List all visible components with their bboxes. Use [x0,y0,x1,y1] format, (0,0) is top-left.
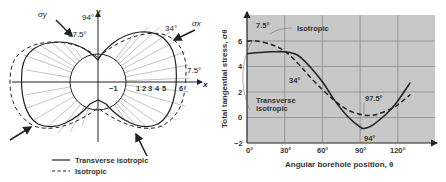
plot-background [247,15,435,143]
legend-transverse-label: Transverse isotropic [75,156,148,165]
polar-legend: Transverse isotropic Isotropic [52,156,148,176]
polar-svg: x y σy σx 94° 97.5° 34° 7.5° −1 1 2 3 4 … [0,0,228,182]
xtick-120: 120° [390,146,406,155]
scale-3: 3 [148,84,152,93]
polar-y-label: y [95,7,101,16]
angle-label-34: 34° [165,24,177,33]
sigma-y-label: σy [38,10,48,19]
tangential-stress-chart: 7.5° Isotropic 34° Transverse isotropic … [206,0,446,182]
ytick-4: 4 [238,62,243,71]
angle-label-97-5: 97.5° [68,30,87,39]
annotation-7-5: 7.5° [256,21,269,30]
sigma-arrow-lower-left [10,127,31,140]
annotation-97-5: 97.5° [365,94,383,103]
scale-1: 1 [136,84,140,93]
ytick-6: 6 [238,37,242,46]
annotation-34: 34° [289,76,300,85]
scale-2: 2 [142,84,146,93]
angle-label-7-5: 7.5° [187,66,201,75]
xtick-90: 90° [355,146,366,155]
scale-6: 6 [179,84,183,93]
ytick-0: 0 [238,113,242,122]
sigma-arrow-lower-right [136,134,147,156]
scale-5: 5 [162,84,166,93]
ytick-2: 2 [238,88,242,97]
chart-y-label: Total tangential stress, σθ [220,29,229,128]
angle-label-94: 94° [82,13,94,22]
annotation-isotropic-2: isotropic [256,104,288,113]
chart-svg: 7.5° Isotropic 34° Transverse isotropic … [206,0,446,182]
xtick-60: 60° [317,146,328,155]
ytick-minus-2: −2 [234,139,243,148]
xtick-0: 0° [246,146,253,155]
xtick-30: 30° [280,146,291,155]
legend-isotropic-label: Isotropic [75,167,107,176]
annotation-94: 94° [364,134,375,143]
sigma-x-label: σx [192,19,202,28]
sigma-x-arrow [174,30,195,40]
polar-stress-diagram: x y σy σx 94° 97.5° 34° 7.5° −1 1 2 3 4 … [0,0,228,182]
scale-minus-1: −1 [109,84,118,93]
annotation-isotropic: Isotropic [297,24,329,33]
chart-x-label: Angular borehole position, θ [285,160,393,169]
